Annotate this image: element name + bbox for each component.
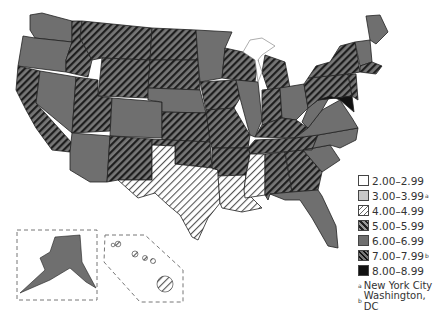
state-florida xyxy=(270,190,338,248)
state-ohio xyxy=(280,84,308,120)
state-wyoming xyxy=(98,58,150,98)
footnote-text: Washington, DC xyxy=(364,290,443,312)
footnote-mark: a xyxy=(358,282,362,289)
legend: 2.00–2.99 3.00–3.99 a 4.00–4.99 5.00–5.9… xyxy=(358,173,443,308)
swatch-black xyxy=(358,265,369,276)
state-michigan xyxy=(262,55,290,90)
swatch-medium-hatch xyxy=(358,220,369,231)
legend-label: 5.00–5.99 xyxy=(372,220,424,232)
legend-item: 6.00–6.99 xyxy=(358,233,443,248)
swatch-white xyxy=(358,175,369,186)
footnote: b Washington, DC xyxy=(358,293,443,308)
state-new-mexico xyxy=(107,136,152,182)
legend-label: 4.00–4.99 xyxy=(372,205,424,217)
legend-item: 3.00–3.99 a xyxy=(358,188,443,203)
footnote-mark: a xyxy=(425,192,429,199)
legend-item: 2.00–2.99 xyxy=(358,173,443,188)
state-maine xyxy=(366,15,388,44)
legend-label: 6.00–6.99 xyxy=(372,235,424,247)
state-colorado xyxy=(110,98,162,138)
state-arkansas xyxy=(212,148,250,176)
footnote-mark: b xyxy=(358,297,362,304)
swatch-light-gray xyxy=(358,190,369,201)
state-south-dakota xyxy=(148,60,200,90)
legend-label: 3.00–3.99 xyxy=(372,190,424,202)
state-hawaii xyxy=(111,241,173,292)
legend-label: 2.00–2.99 xyxy=(372,175,424,187)
legend-item: 4.00–4.99 xyxy=(358,203,443,218)
state-montana xyxy=(80,21,152,60)
legend-item: 8.00–8.99 xyxy=(358,263,443,278)
state-iowa xyxy=(200,80,240,110)
swatch-dark-hatch xyxy=(358,250,369,261)
swatch-solid-gray xyxy=(358,235,369,246)
state-north-dakota xyxy=(150,28,198,60)
state-missouri xyxy=(206,108,250,148)
legend-label: 7.00–7.99 xyxy=(372,250,424,262)
state-alaska xyxy=(20,235,96,293)
legend-item: 7.00–7.99 b xyxy=(358,248,443,263)
swatch-light-hatch xyxy=(358,205,369,216)
state-washington xyxy=(30,13,72,42)
footnote-mark: b xyxy=(425,252,429,259)
state-oregon xyxy=(18,36,72,72)
state-new-york xyxy=(308,42,360,78)
legend-item: 5.00–5.99 xyxy=(358,218,443,233)
state-arizona xyxy=(70,133,110,182)
state-kansas xyxy=(162,112,210,142)
legend-label: 8.00–8.99 xyxy=(372,265,424,277)
